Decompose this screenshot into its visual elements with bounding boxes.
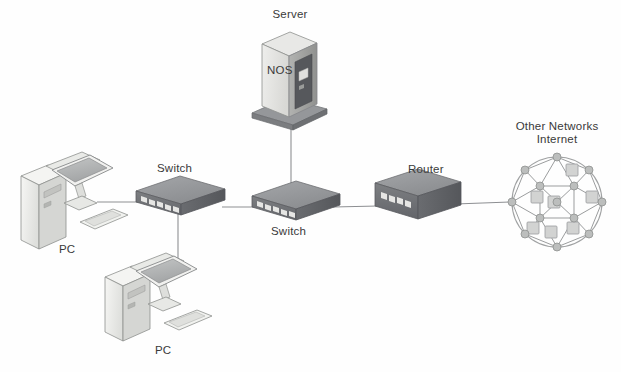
link-switchright-router — [333, 206, 378, 207]
link-router-cloud — [455, 202, 512, 204]
router-label: Router — [408, 163, 444, 176]
pc-left-device — [21, 152, 128, 249]
pc-left-tower-front — [21, 176, 39, 249]
pc-left-monitor-stand — [64, 196, 97, 210]
pc-bottom-device — [105, 253, 212, 341]
router-device — [375, 169, 461, 219]
cloud-label-line1: Other Networks — [505, 120, 609, 133]
network-diagram-graphic — [0, 0, 621, 372]
pc-left-label: PC — [59, 243, 75, 256]
server-nos-label: NOS — [267, 64, 293, 77]
pc-bottom-tower-front — [105, 277, 123, 341]
pc-bottom-tower-side — [123, 274, 150, 341]
switch-right-device — [252, 181, 340, 220]
pc-bottom-label: PC — [155, 344, 171, 357]
mesh-network-device — [508, 153, 606, 251]
cloud-label-line2: Internet — [505, 133, 609, 146]
server-device — [252, 32, 327, 130]
server-front-face — [262, 44, 289, 117]
mesh-host-boxes — [527, 164, 598, 238]
network-diagram-canvas: Server NOS Switch Switch Router Other Ne… — [0, 0, 621, 372]
pc-left-tower-side — [39, 173, 66, 249]
pc-bottom-monitor-stand — [148, 297, 181, 311]
switch-right-label: Switch — [271, 225, 306, 238]
switch-left-device — [136, 176, 225, 215]
server-drive-bay — [295, 54, 312, 109]
server-label: Server — [258, 8, 322, 21]
switch-left-label: Switch — [157, 162, 192, 175]
